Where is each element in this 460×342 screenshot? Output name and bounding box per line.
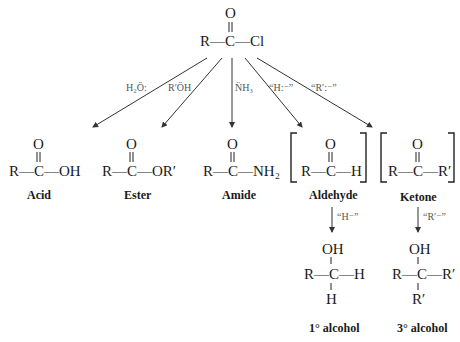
alcohol1-oh: OH bbox=[322, 242, 344, 257]
reagent-carbanion-2: “R′⁻” bbox=[423, 212, 446, 222]
alcohol3-label: 3° alcohol bbox=[397, 322, 447, 334]
alcohol3-formula: R—C—R′ bbox=[392, 267, 455, 282]
ester-o: O bbox=[126, 137, 137, 152]
alcohol1-label: 1° alcohol bbox=[309, 322, 359, 334]
aldehyde-label: Aldehyde bbox=[309, 189, 358, 201]
alcohol1-h: H bbox=[326, 292, 337, 307]
acid-formula: R—C—OH bbox=[9, 164, 81, 179]
alcohol3-r: R′ bbox=[412, 292, 425, 307]
ketone-label: Ketone bbox=[400, 191, 437, 203]
amide-formula: R—C—NH₂ bbox=[203, 164, 280, 179]
bracket-left-aldehyde bbox=[291, 133, 297, 182]
reagent-hydride: “H:⁻” bbox=[269, 83, 293, 93]
bracket-left-ketone bbox=[381, 133, 387, 182]
amide-label: Amide bbox=[222, 189, 256, 201]
reagent-alcohol: R′ÖH bbox=[168, 83, 191, 93]
ketone-formula: R—C—R′ bbox=[388, 164, 451, 179]
ester-formula: R—C—OR′ bbox=[102, 164, 176, 179]
amide-o: O bbox=[227, 137, 238, 152]
acid-o: O bbox=[33, 137, 44, 152]
reagent-water: H₂Ö: bbox=[126, 83, 147, 93]
aldehyde-o: O bbox=[325, 137, 336, 152]
aldehyde-formula: R—C—H bbox=[301, 164, 362, 179]
alcohol3-oh: OH bbox=[409, 242, 431, 257]
acid-chloride: R—C—Cl bbox=[200, 34, 264, 49]
reagent-carbanion: “R′:⁻” bbox=[311, 83, 337, 93]
reagent-hydride-2: “H⁻” bbox=[337, 212, 358, 222]
reagent-ammonia: N̈H₃ bbox=[235, 83, 253, 93]
ketone-o: O bbox=[412, 137, 423, 152]
acid-label: Acid bbox=[27, 189, 51, 201]
start-carbonyl-o: O bbox=[225, 6, 236, 21]
alcohol1-formula: R—C—H bbox=[304, 267, 365, 282]
ester-label: Ester bbox=[124, 189, 151, 201]
